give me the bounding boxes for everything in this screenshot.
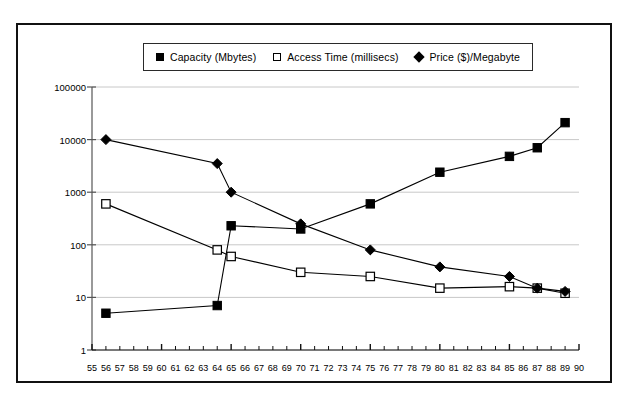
data-point-marker <box>226 187 236 197</box>
plot-area <box>92 87 579 350</box>
x-axis-tick-label: 67 <box>254 363 264 373</box>
legend-item-access-time: Access Time (millisecs) <box>273 51 398 63</box>
x-axis-tick-label: 72 <box>324 363 334 373</box>
x-axis-tick-label: 57 <box>115 363 125 373</box>
x-axis-tick-label: 68 <box>268 363 278 373</box>
filled-diamond-marker-icon <box>414 51 425 62</box>
data-point-marker <box>366 272 374 280</box>
x-axis-tick-label: 60 <box>157 363 167 373</box>
filled-square-marker-icon <box>156 53 164 61</box>
x-axis-tick-label: 80 <box>435 363 445 373</box>
data-point-marker <box>366 200 374 208</box>
x-axis-tick-label: 75 <box>365 363 375 373</box>
legend-label-access-time: Access Time (millisecs) <box>287 51 398 63</box>
x-axis-tick-label: 79 <box>421 363 431 373</box>
data-point-marker <box>212 159 222 169</box>
legend-label-price: Price ($)/Megabyte <box>429 51 520 63</box>
x-axis-tick-label: 55 <box>87 363 97 373</box>
x-axis-tick-label: 84 <box>490 363 500 373</box>
data-point-marker <box>102 200 110 208</box>
x-axis-tick-label: 59 <box>143 363 153 373</box>
open-square-marker-icon <box>273 53 281 61</box>
y-axis-tick-label: 1000 <box>65 187 86 198</box>
x-axis-tick-label: 65 <box>226 363 236 373</box>
series-line-2 <box>106 140 565 292</box>
y-axis-tick-label: 10 <box>75 292 86 303</box>
data-point-marker <box>505 152 513 160</box>
x-axis-tick-label: 77 <box>393 363 403 373</box>
y-axis-tick-label: 100000 <box>54 82 86 93</box>
chart-legend: Capacity (Mbytes) Access Time (millisecs… <box>143 43 533 71</box>
x-axis-tick-label: 90 <box>574 363 584 373</box>
x-axis-tick-label: 61 <box>170 363 180 373</box>
x-axis-tick-label: 78 <box>407 363 417 373</box>
x-axis-tick-label: 81 <box>449 363 459 373</box>
x-axis-tick-label: 70 <box>296 363 306 373</box>
x-axis-tick-label: 74 <box>351 363 361 373</box>
x-axis-tick-label: 63 <box>198 363 208 373</box>
series-line-1 <box>106 204 565 293</box>
data-point-marker <box>561 118 569 126</box>
chart-canvas <box>92 87 579 350</box>
x-axis-tick-label: 86 <box>518 363 528 373</box>
data-point-marker <box>435 262 445 272</box>
x-axis-tick-label: 89 <box>560 363 570 373</box>
data-point-marker <box>505 282 513 290</box>
y-axis-tick-label: 1 <box>81 345 86 356</box>
data-point-marker <box>102 309 110 317</box>
x-axis-tick-label: 56 <box>101 363 111 373</box>
legend-item-capacity: Capacity (Mbytes) <box>156 51 256 63</box>
legend-label-capacity: Capacity (Mbytes) <box>170 51 256 63</box>
x-axis-tick-label: 71 <box>310 363 320 373</box>
data-point-marker <box>227 252 235 260</box>
data-point-marker <box>213 246 221 254</box>
data-point-marker <box>101 135 111 145</box>
legend-item-price: Price ($)/Megabyte <box>415 51 520 63</box>
y-axis-tick-labels: 100000100001000100101 <box>18 87 86 350</box>
figure-frame: Capacity (Mbytes) Access Time (millisecs… <box>16 23 612 383</box>
x-axis-tick-label: 62 <box>184 363 194 373</box>
x-axis-tick-label: 85 <box>504 363 514 373</box>
data-point-marker <box>436 168 444 176</box>
x-axis-tick-label: 82 <box>463 363 473 373</box>
data-point-marker <box>213 301 221 309</box>
x-axis-tick-label: 87 <box>532 363 542 373</box>
x-axis-tick-label: 76 <box>379 363 389 373</box>
x-axis-tick-label: 83 <box>477 363 487 373</box>
x-axis-tick-label: 66 <box>240 363 250 373</box>
data-point-marker <box>297 268 305 276</box>
x-axis-tick-label: 69 <box>282 363 292 373</box>
y-axis-tick-label: 10000 <box>60 134 86 145</box>
x-axis-tick-label: 88 <box>546 363 556 373</box>
x-axis-tick-label: 64 <box>212 363 222 373</box>
data-point-marker <box>533 144 541 152</box>
data-point-marker <box>504 271 514 281</box>
data-point-marker <box>436 284 444 292</box>
x-axis-tick-label: 58 <box>129 363 139 373</box>
x-axis-tick-label: 73 <box>337 363 347 373</box>
x-axis-tick-labels: 5556575859606162636465666768697071727374… <box>92 363 579 379</box>
y-axis-tick-label: 100 <box>70 239 86 250</box>
data-point-marker <box>227 222 235 230</box>
series-line-0 <box>106 123 565 314</box>
data-point-marker <box>365 245 375 255</box>
